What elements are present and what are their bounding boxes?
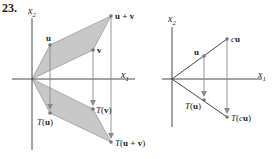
point-Tuv — [109, 140, 113, 144]
label-u-plus-v: u + v — [115, 11, 135, 21]
x1-axis-label-right: x1 — [257, 69, 266, 83]
label-u: u — [46, 33, 51, 43]
point-Tu-right — [202, 98, 206, 102]
x2-axis-label-right: x2 — [167, 13, 176, 27]
line-origin-to-Tcu — [172, 79, 227, 117]
right-diagram: x2 x1 u cu T(u) T(cu) — [162, 13, 266, 127]
left-diagram: x2 x1 u v u + v T(u) T(v) T(u + v) — [12, 5, 145, 150]
label-v: v — [97, 45, 102, 55]
linear-transformation-figure: x2 x1 u v u + v T(u) T(v) T(u + v) x2 x1 — [0, 0, 278, 159]
label-Tu-right: T(u) — [185, 101, 201, 111]
x1-axis-label: x1 — [120, 69, 129, 83]
point-Tv — [91, 107, 95, 111]
point-u-plus-v — [109, 14, 113, 18]
x2-axis-label: x2 — [27, 5, 36, 19]
point-Tcu — [225, 115, 229, 119]
point-v — [91, 48, 95, 52]
label-Tv: T(v) — [96, 105, 112, 115]
label-cu: cu — [231, 34, 240, 44]
label-u-right: u — [194, 47, 199, 57]
label-Tuv: T(u + v) — [115, 138, 145, 148]
label-Tcu: T(cu) — [231, 113, 251, 123]
point-u — [48, 43, 52, 47]
point-cu — [225, 37, 229, 41]
point-u-right — [202, 54, 206, 58]
label-Tu: T(u) — [37, 117, 53, 127]
line-origin-to-cu — [172, 39, 227, 79]
point-Tu — [48, 111, 52, 115]
